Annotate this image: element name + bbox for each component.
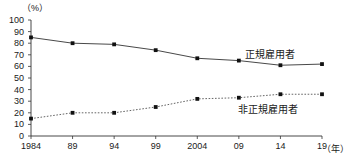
- data-point-marker: [154, 48, 158, 52]
- data-point-marker: [279, 92, 283, 96]
- data-point-marker: [29, 117, 33, 121]
- data-point-marker: [320, 92, 324, 96]
- data-point-marker: [320, 62, 324, 66]
- data-point-marker: [237, 59, 241, 63]
- data-point-marker: [71, 41, 75, 45]
- data-point-marker: [195, 56, 199, 60]
- data-point-marker: [112, 42, 116, 46]
- data-point-marker: [237, 96, 241, 100]
- series-label-nonregular: 非正規雇用者: [238, 101, 298, 116]
- data-point-marker: [29, 36, 33, 40]
- data-point-marker: [279, 63, 283, 67]
- series-label-regular: 正規雇用者: [245, 46, 295, 61]
- data-point-marker: [154, 105, 158, 109]
- data-point-marker: [195, 97, 199, 101]
- data-point-marker: [112, 111, 116, 115]
- data-point-marker: [71, 111, 75, 115]
